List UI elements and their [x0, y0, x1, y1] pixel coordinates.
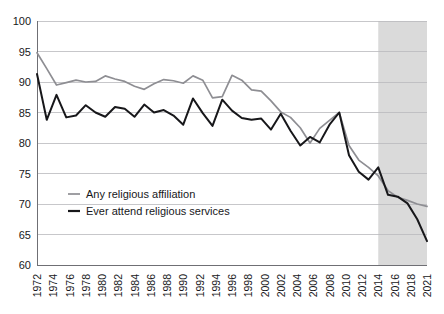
- x-axis-tick-labels: 1972197419761978198019821984198619881990…: [31, 274, 433, 298]
- x-tick-1988: 1988: [161, 274, 173, 298]
- legend-label-0: Any religious affiliation: [86, 188, 195, 200]
- x-tick-1976: 1976: [64, 274, 76, 298]
- religious-affiliation-line-chart: 6065707580859095100 19721974197619781980…: [0, 0, 444, 314]
- x-tick-2008: 2008: [324, 274, 336, 298]
- x-tick-1986: 1986: [145, 274, 157, 298]
- x-tick-1982: 1982: [112, 274, 124, 298]
- x-tick-1990: 1990: [177, 274, 189, 298]
- x-tick-2018: 2018: [405, 274, 417, 298]
- chart-legend: Any religious affiliationEver attend rel…: [68, 188, 230, 217]
- x-tick-1998: 1998: [242, 274, 254, 298]
- x-tick-2010: 2010: [340, 274, 352, 298]
- x-tick-2012: 2012: [356, 274, 368, 298]
- x-tick-2004: 2004: [291, 274, 303, 298]
- y-tick-100: 100: [13, 15, 31, 27]
- x-tick-1978: 1978: [80, 274, 92, 298]
- x-tick-2016: 2016: [389, 274, 401, 298]
- x-tick-2006: 2006: [307, 274, 319, 298]
- y-tick-65: 65: [19, 229, 31, 241]
- gridlines-group: [37, 21, 427, 235]
- y-tick-90: 90: [19, 76, 31, 88]
- y-tick-80: 80: [19, 137, 31, 149]
- y-tick-70: 70: [19, 198, 31, 210]
- y-axis-tick-labels: 6065707580859095100: [13, 15, 31, 271]
- series-line-any-religious-affiliation: [37, 53, 427, 207]
- chart-container: 6065707580859095100 19721974197619781980…: [0, 0, 444, 314]
- x-tick-1996: 1996: [226, 274, 238, 298]
- legend-label-1: Ever attend religious services: [86, 205, 230, 217]
- x-tick-1992: 1992: [194, 274, 206, 298]
- x-tick-2014: 2014: [372, 274, 384, 298]
- x-tick-1994: 1994: [210, 274, 222, 298]
- y-tick-85: 85: [19, 107, 31, 119]
- y-tick-95: 95: [19, 46, 31, 58]
- x-tick-2000: 2000: [259, 274, 271, 298]
- y-tick-60: 60: [19, 259, 31, 271]
- x-tick-1980: 1980: [96, 274, 108, 298]
- x-tick-1974: 1974: [47, 274, 59, 298]
- x-tick-2002: 2002: [275, 274, 287, 298]
- x-tick-1972: 1972: [31, 274, 43, 298]
- y-tick-75: 75: [19, 168, 31, 180]
- x-tick-2021: 2021: [421, 274, 433, 298]
- x-tick-1984: 1984: [129, 274, 141, 298]
